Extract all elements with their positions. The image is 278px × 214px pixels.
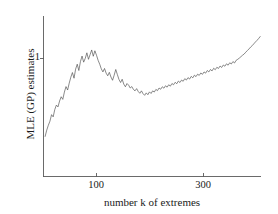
plot-canvas bbox=[0, 0, 278, 214]
axes-group bbox=[43, 16, 261, 177]
chart-figure: 1 100 300 number k of extremes MLE (GP) … bbox=[0, 0, 278, 214]
data-line-mle-gp bbox=[45, 37, 260, 137]
x-axis-tick-label-300: 300 bbox=[190, 180, 216, 191]
x-axis-tick-label-100: 100 bbox=[83, 180, 109, 191]
tick-marks-group bbox=[40, 59, 204, 177]
x-axis-title: number k of extremes bbox=[43, 196, 261, 208]
data-series-group bbox=[45, 37, 260, 137]
y-axis-title: MLE (GP) estimates bbox=[24, 14, 36, 174]
